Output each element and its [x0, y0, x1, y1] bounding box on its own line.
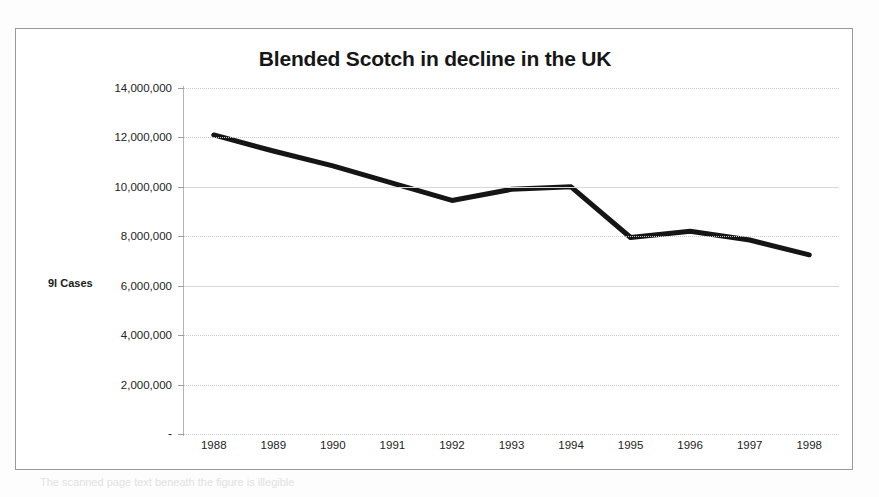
x-axis-tick-label: 1992	[422, 439, 482, 451]
gridline	[184, 335, 839, 336]
x-axis-tick-label: 1989	[243, 439, 303, 451]
x-axis-tick-label: 1990	[303, 439, 363, 451]
x-axis-tick-label: 1994	[541, 439, 601, 451]
scan-artifact-text: The scanned page text beneath the figure…	[40, 476, 840, 492]
gridline	[184, 434, 839, 435]
y-axis-tick-label: 12,000,000	[52, 131, 172, 143]
gridline	[184, 187, 839, 188]
gridline	[184, 385, 839, 386]
y-axis-tick-mark	[178, 137, 184, 138]
gridline	[184, 137, 839, 138]
y-axis-tick-mark	[178, 88, 184, 89]
x-axis-tick-labels: 1988198919901991199219931994199519961997…	[184, 439, 839, 463]
y-axis-tick-label: 2,000,000	[52, 379, 172, 391]
gridline	[184, 236, 839, 237]
y-axis-tick-label: 10,000,000	[52, 181, 172, 193]
y-axis-tick-label: 6,000,000	[52, 280, 172, 292]
chart-figure-frame: Blended Scotch in decline in the UK 9l C…	[15, 28, 853, 470]
x-axis-tick-label: 1998	[779, 439, 839, 451]
y-axis-tick-mark	[178, 187, 184, 188]
plot-area	[184, 88, 839, 434]
line-series-blended-scotch	[184, 88, 839, 434]
gridline	[184, 88, 839, 89]
chart-title: Blended Scotch in decline in the UK	[16, 47, 854, 71]
gridline	[184, 286, 839, 287]
x-axis-tick-label: 1993	[482, 439, 542, 451]
y-axis-tick-label: 8,000,000	[52, 230, 172, 242]
x-axis-tick-label: 1988	[184, 439, 244, 451]
y-axis-tick-mark	[178, 286, 184, 287]
y-axis-tick-labels: -2,000,0004,000,0006,000,0008,000,00010,…	[44, 88, 172, 434]
y-axis-tick-label: 4,000,000	[52, 329, 172, 341]
y-axis-tick-label: -	[52, 427, 172, 441]
y-axis-tick-label: 14,000,000	[52, 82, 172, 94]
x-axis-tick-label: 1997	[720, 439, 780, 451]
y-axis-tick-mark	[178, 385, 184, 386]
x-axis-tick-label: 1991	[362, 439, 422, 451]
y-axis-tick-mark	[178, 335, 184, 336]
x-axis-tick-label: 1995	[601, 439, 661, 451]
x-axis-tick-label: 1996	[660, 439, 720, 451]
screenshot-root: Blended Scotch in decline in the UK 9l C…	[0, 0, 879, 497]
y-axis-tick-mark	[178, 236, 184, 237]
y-axis-tick-mark	[178, 434, 184, 435]
